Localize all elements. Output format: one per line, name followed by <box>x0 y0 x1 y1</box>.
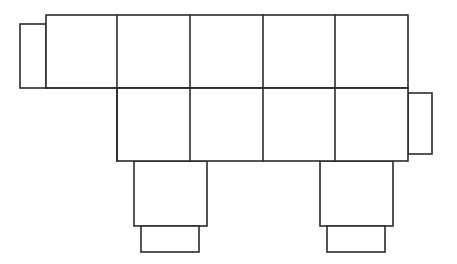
left-leg-upper-panel <box>134 161 207 226</box>
right-leg-upper-panel <box>320 161 393 226</box>
left-tab <box>20 24 46 88</box>
left-leg-lower-flap <box>141 226 199 252</box>
net-diagram-figure <box>0 0 457 264</box>
top-row-outline <box>46 15 408 88</box>
right-tab <box>408 93 432 154</box>
right-leg-lower-flap <box>327 226 385 252</box>
net-diagram-canvas <box>0 0 457 264</box>
